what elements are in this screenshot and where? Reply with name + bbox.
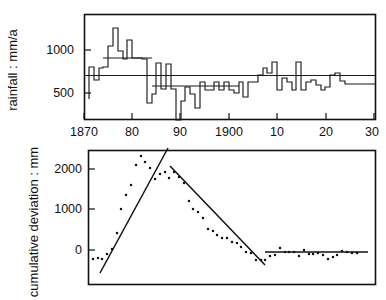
cumulative-deviation-y-axis-label: cumulative deviation : mm bbox=[26, 147, 41, 297]
deviation-ytick-0: 0 bbox=[75, 243, 82, 257]
xtick-label-1930: 30 bbox=[365, 125, 379, 139]
rainfall-ytick-1000: 1000 bbox=[46, 43, 74, 57]
rainfall-panel: rainfall : mm/a 1000 500 bbox=[5, 15, 376, 121]
rainfall-y-axis-label: rainfall : mm/a bbox=[5, 28, 20, 110]
cumulative-deviation-plot-frame bbox=[89, 151, 376, 285]
xtick-label-1880: 80 bbox=[125, 125, 139, 139]
figure-canvas: rainfall : mm/a 1000 500 bbox=[0, 0, 386, 300]
rainfall-xtick-marks bbox=[84, 113, 374, 119]
cumulative-deviation-panel: cumulative deviation : mm 2000 1000 0 bbox=[26, 147, 376, 297]
deviation-ytick-2000: 2000 bbox=[54, 162, 82, 176]
xtick-label-1920: 20 bbox=[319, 125, 333, 139]
xtick-label-1870: 1870 bbox=[70, 125, 98, 139]
deviation-data-points bbox=[92, 155, 359, 262]
rainfall-figure: rainfall : mm/a 1000 500 bbox=[0, 0, 386, 300]
rainfall-step-series bbox=[89, 28, 375, 120]
deviation-falling-trend-segment bbox=[170, 166, 265, 265]
deviation-ytick-1000: 1000 bbox=[54, 202, 82, 216]
rainfall-plot-frame bbox=[85, 15, 376, 120]
xtick-label-1910: 10 bbox=[270, 125, 284, 139]
rainfall-x-axis-labels: 1870 80 90 1900 10 20 30 bbox=[70, 125, 379, 139]
xtick-label-1900: 1900 bbox=[215, 125, 243, 139]
xtick-label-1890: 90 bbox=[173, 125, 187, 139]
deviation-rising-trend-segment bbox=[100, 148, 168, 273]
rainfall-ytick-500: 500 bbox=[53, 86, 74, 100]
